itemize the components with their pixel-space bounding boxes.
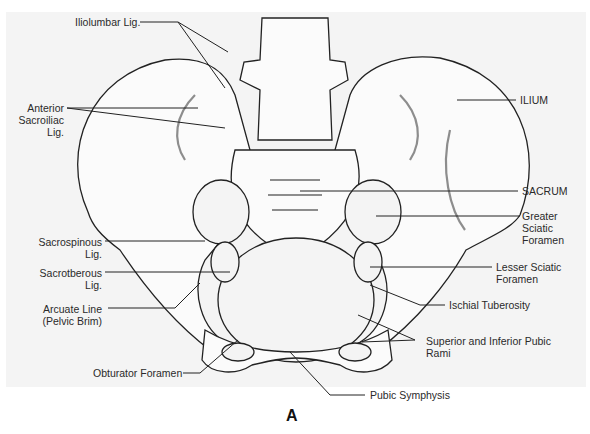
label-sacrospinous-ligament: Sacrospinous Lig.	[6, 236, 102, 260]
pelvis-illustration	[0, 0, 590, 434]
right-lesser-sciatic-foramen	[354, 242, 382, 282]
label-anterior-sacroiliac-ligament: Anterior Sacroiliac Lig.	[6, 102, 64, 138]
right-greater-sciatic-foramen	[345, 180, 401, 244]
label-pubic-rami: Superior and Inferior Pubic Rami	[426, 335, 551, 359]
label-iliolumbar-ligament: Iliolumbar Lig.	[75, 16, 140, 28]
label-ischial-tuberosity: Ischial Tuberosity	[449, 299, 530, 311]
label-greater-sciatic-foramen: Greater Sciatic Foramen	[522, 210, 564, 246]
label-ilium: ILIUM	[520, 94, 548, 106]
left-greater-sciatic-foramen	[193, 180, 249, 244]
left-obturator-foramen	[222, 343, 254, 361]
label-sacrotuberous-ligament: Sacrotberous Lig.	[6, 267, 102, 291]
lumbar-vertebra	[240, 18, 348, 140]
figure: Iliolumbar Lig. Anterior Sacroiliac Lig.…	[0, 0, 590, 434]
left-lesser-sciatic-foramen	[211, 242, 239, 282]
label-arcuate-line: Arcuate Line (Pelvic Brim)	[6, 303, 102, 327]
right-obturator-foramen	[339, 343, 371, 361]
label-lesser-sciatic-foramen: Lesser Sciatic Foramen	[496, 261, 561, 285]
figure-caption: A	[286, 407, 298, 425]
label-pubic-symphysis: Pubic Symphysis	[370, 389, 450, 401]
label-sacrum: SACRUM	[522, 185, 568, 197]
label-obturator-foramen: Obturator Foramen	[93, 367, 182, 379]
